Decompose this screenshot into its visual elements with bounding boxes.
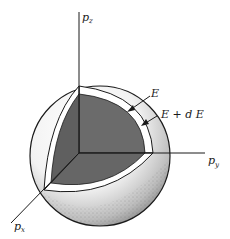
- px-axis-label: px: [14, 220, 25, 234]
- diagram-svg: pz py px E E + d E: [0, 0, 230, 239]
- energy-label-e: E: [150, 87, 159, 100]
- pz-axis-label: pz: [82, 11, 93, 25]
- energy-label-e-plus-de: E + d E: [160, 108, 204, 121]
- momentum-sphere-diagram: pz py px E E + d E: [0, 0, 230, 239]
- py-axis-label: py: [208, 154, 220, 169]
